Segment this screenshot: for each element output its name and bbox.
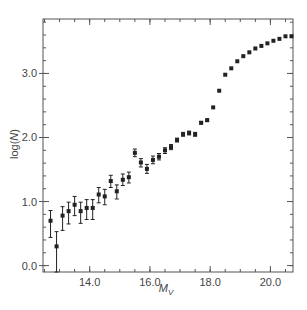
data-point <box>157 155 161 159</box>
y-tick-label: 1.0 <box>22 196 37 208</box>
y-tick-label: 3.0 <box>22 67 37 79</box>
x-axis-label-sub: V <box>168 288 174 297</box>
luminosity-function-chart: 14.016.018.020.0 0.01.02.03.0 MV log(N) <box>0 0 307 310</box>
data-point <box>247 50 251 54</box>
data-point <box>97 192 101 196</box>
data-point <box>85 206 89 210</box>
data-point <box>271 39 275 43</box>
data-point <box>109 179 113 183</box>
y-axis-label: log(N) <box>8 129 20 159</box>
data-point <box>193 132 197 136</box>
data-point <box>91 206 95 210</box>
data-point <box>265 41 269 45</box>
data-point <box>121 178 125 182</box>
data-point <box>163 148 167 152</box>
data-point <box>277 37 281 41</box>
data-point <box>139 160 143 164</box>
data-point <box>175 138 179 142</box>
y-axis-label-var: N <box>8 133 20 141</box>
x-tick-label: 14.0 <box>79 276 100 288</box>
data-point <box>259 44 263 48</box>
data-point <box>133 151 137 155</box>
data-point <box>211 105 215 109</box>
x-tick-label: 18.0 <box>199 276 220 288</box>
data-point <box>61 214 65 218</box>
data-point <box>79 209 83 213</box>
data-point <box>55 244 59 248</box>
data-point <box>169 145 173 149</box>
data-point <box>115 189 119 193</box>
y-axis-label-suffix: ) <box>8 129 20 133</box>
data-point <box>241 54 245 58</box>
data-point <box>253 46 257 50</box>
data-point <box>229 66 233 70</box>
x-tick-label: 20.0 <box>260 276 281 288</box>
data-point <box>151 158 155 162</box>
data-point <box>67 209 71 213</box>
data-point <box>181 132 185 136</box>
data-point <box>283 34 287 38</box>
data-point <box>187 131 191 135</box>
data-point <box>199 121 203 125</box>
data-point <box>49 219 53 223</box>
y-axis-label-prefix: log( <box>8 140 20 159</box>
data-point <box>103 194 107 198</box>
data-point <box>145 167 149 171</box>
data-point <box>223 73 227 77</box>
data-point <box>127 175 131 179</box>
y-tick-label: 0.0 <box>22 260 37 272</box>
x-tick-label: 16.0 <box>139 276 160 288</box>
data-point <box>73 203 77 207</box>
data-point <box>235 59 239 63</box>
y-tick-label: 2.0 <box>22 131 37 143</box>
data-point <box>205 118 209 122</box>
data-point <box>289 34 293 38</box>
data-point <box>217 89 221 93</box>
